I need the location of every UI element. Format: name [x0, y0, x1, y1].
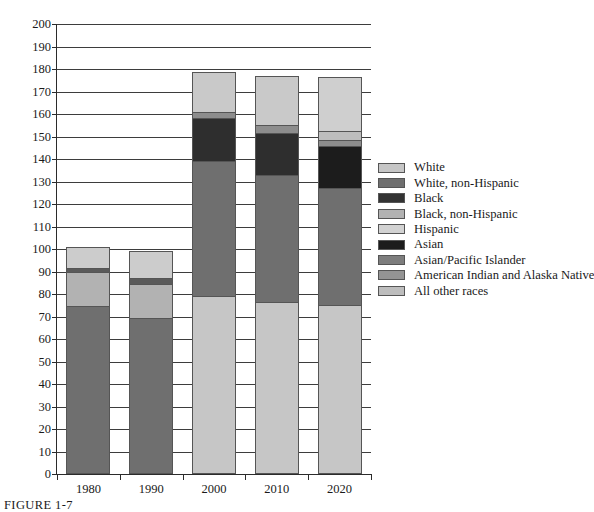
x-axis-tick-label: 1990 [139, 483, 164, 496]
y-axis-tick-label: 80 [39, 288, 52, 301]
y-axis-tick-label: 170 [32, 85, 51, 98]
legend-item: Black, non-Hispanic [378, 206, 592, 221]
figure-container: 0102030405060708090100110120130140150160… [0, 0, 594, 512]
gridline [57, 24, 371, 25]
y-axis-tick-label: 130 [32, 175, 51, 188]
y-axis-tick-label: 100 [32, 243, 51, 256]
bar-segment [193, 113, 235, 120]
x-axis-tick-label: 1980 [76, 483, 101, 496]
legend-swatch-icon [378, 209, 405, 219]
bar-segment [319, 132, 361, 141]
y-axis-tick-label: 0 [45, 468, 51, 481]
bar-segment [256, 134, 298, 177]
y-axis-tick-label: 70 [39, 310, 52, 323]
y-axis-tick [52, 249, 57, 250]
bar-segment [193, 119, 235, 162]
bar-segment [256, 176, 298, 302]
legend-swatch-icon [378, 163, 405, 173]
bar-segment [130, 285, 172, 320]
y-axis-tick [52, 362, 57, 363]
x-axis-tick [183, 474, 184, 480]
y-axis-tick [52, 294, 57, 295]
y-axis-tick-label: 160 [32, 108, 51, 121]
legend-item: Black [378, 191, 592, 206]
y-axis-tick [52, 159, 57, 160]
x-axis-tick-label: 2020 [327, 483, 352, 496]
y-axis-tick-label: 120 [32, 198, 51, 211]
legend-item: Hispanic [378, 222, 592, 237]
legend-item-label: Black, non-Hispanic [414, 208, 518, 221]
legend-item: American Indian and Alaska Native [378, 268, 592, 283]
x-axis-tick [120, 474, 121, 480]
y-axis-tick-label: 90 [39, 265, 52, 278]
x-axis-tick [57, 474, 58, 480]
y-axis-tick [52, 272, 57, 273]
legend-item: Asian/Pacific Islander [378, 252, 592, 267]
legend-item: White, non-Hispanic [378, 175, 592, 190]
bar-1980 [66, 247, 110, 474]
legend-item-label: Asian [414, 238, 443, 251]
legend-item-label: White, non-Hispanic [414, 177, 519, 190]
legend-item: White [378, 160, 592, 175]
bar-segment [193, 73, 235, 112]
bar-segment [319, 141, 361, 148]
legend-item-label: Black [414, 192, 443, 205]
y-axis-tick-label: 150 [32, 130, 51, 143]
bar-1990 [129, 251, 173, 474]
bar-segment [193, 297, 235, 473]
x-axis-tick [245, 474, 246, 480]
y-axis-tick [52, 92, 57, 93]
figure-caption: FIGURE 1-7 [4, 498, 73, 512]
y-axis-tick-label: 140 [32, 153, 51, 166]
x-axis-tick [308, 474, 309, 480]
y-axis-tick [52, 429, 57, 430]
y-axis-tick [52, 114, 57, 115]
bar-segment [319, 306, 361, 473]
y-axis-tick [52, 317, 57, 318]
bar-segment [256, 77, 298, 126]
bar-segment [67, 273, 109, 306]
y-axis-tick [52, 407, 57, 408]
y-axis-tick-label: 60 [39, 333, 52, 346]
legend-item-label: American Indian and Alaska Native [414, 269, 594, 282]
chart-plot-area: 0102030405060708090100110120130140150160… [56, 24, 371, 475]
y-axis-tick-label: 190 [32, 40, 51, 53]
y-axis-tick [52, 227, 57, 228]
bar-segment [193, 162, 235, 297]
bar-segment [67, 248, 109, 269]
y-axis-tick [52, 452, 57, 453]
gridline [57, 47, 371, 48]
y-axis-tick-label: 20 [39, 423, 52, 436]
y-axis-tick [52, 137, 57, 138]
bar-2000 [192, 72, 236, 474]
legend-swatch-icon [378, 224, 405, 234]
y-axis-tick-label: 30 [39, 400, 52, 413]
y-axis-tick [52, 24, 57, 25]
y-axis-tick [52, 339, 57, 340]
y-axis-tick-label: 40 [39, 378, 52, 391]
bar-segment [319, 189, 361, 307]
legend-swatch-icon [378, 240, 405, 250]
bar-segment [256, 126, 298, 134]
legend-item: All other races [378, 283, 592, 298]
legend-item-label: Asian/Pacific Islander [414, 254, 526, 267]
bar-segment [67, 307, 109, 473]
legend-swatch-icon [378, 286, 405, 296]
bar-segment [130, 252, 172, 279]
y-axis-tick-label: 50 [39, 355, 52, 368]
bar-segment [319, 147, 361, 188]
y-axis-tick-label: 180 [32, 63, 51, 76]
x-axis-tick [371, 474, 372, 480]
legend-swatch-icon [378, 270, 405, 280]
y-axis-tick-label: 10 [39, 445, 52, 458]
legend-item-label: All other races [414, 285, 488, 298]
legend-item: Asian [378, 237, 592, 252]
gridline [57, 69, 371, 70]
x-axis-tick-label: 2010 [264, 483, 289, 496]
y-axis-tick-label: 110 [33, 220, 51, 233]
legend-swatch-icon [378, 255, 405, 265]
y-axis-tick [52, 47, 57, 48]
bar-segment [130, 319, 172, 473]
y-axis-tick [52, 182, 57, 183]
legend-swatch-icon [378, 178, 405, 188]
